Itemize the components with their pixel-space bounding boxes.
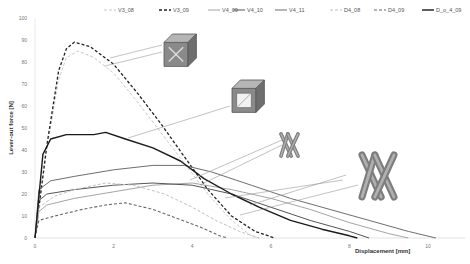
x-tick-label: 6 — [269, 243, 272, 249]
y-tick-label: 90 — [21, 37, 27, 43]
series-line-v3-09 — [35, 42, 275, 238]
y-tick-label: 0 — [24, 235, 27, 241]
callout-line — [110, 45, 162, 58]
x-tick-label: 2 — [112, 243, 115, 249]
series-line-v4-10 — [35, 183, 369, 238]
legend-label: V3_09 — [173, 7, 189, 13]
y-tick-label: 10 — [21, 213, 27, 219]
legend-label: D_o_4_09 — [436, 7, 461, 13]
y-tick-label: 20 — [21, 191, 27, 197]
d-o-4-cube-frame-image — [232, 80, 264, 112]
series-lines — [35, 42, 436, 238]
y-tick-label: 70 — [21, 81, 27, 87]
y-tick-label: 60 — [21, 103, 27, 109]
callout-line — [128, 106, 230, 138]
v3-lattice-cube-image — [164, 34, 196, 66]
y-tick-label: 50 — [21, 125, 27, 131]
x-tick-label: 4 — [191, 243, 194, 249]
v4-x-beam-image — [281, 134, 298, 156]
x-tick-label: 10 — [425, 243, 431, 249]
legend: V3_08V3_09V4_09V4_10V4_11D4_08D4_09D_o_4… — [104, 7, 461, 13]
callout-line — [190, 140, 282, 180]
series-line-v4-09 — [35, 183, 408, 238]
y-tick-label: 40 — [21, 147, 27, 153]
callout-line — [105, 52, 162, 66]
series-line-d4-09 — [35, 203, 228, 238]
legend-label: V4_11 — [289, 7, 305, 13]
d4-x-beam-image — [362, 155, 394, 197]
structure-images — [164, 34, 394, 197]
x-axis-title: Displacement [mm] — [355, 248, 410, 254]
y-axis-title: Lever-out force [N] — [8, 101, 14, 155]
callout-line — [200, 145, 282, 185]
y-tick-label: 80 — [21, 59, 27, 65]
x-tick-label: 8 — [348, 243, 351, 249]
series-line-v4-11 — [35, 165, 436, 238]
x-tick-label: 0 — [34, 243, 37, 249]
legend-label: V4_10 — [247, 7, 263, 13]
y-tick-label: 100 — [19, 15, 28, 21]
y-tick-label: 30 — [21, 169, 27, 175]
legend-label: D4_09 — [388, 7, 404, 13]
axes: 02468100102030405060708090100 — [19, 15, 465, 249]
lever-out-force-chart: 02468100102030405060708090100 V3_08V3_09… — [0, 0, 470, 264]
legend-label: V3_08 — [118, 7, 134, 13]
legend-label: D4_08 — [344, 7, 360, 13]
